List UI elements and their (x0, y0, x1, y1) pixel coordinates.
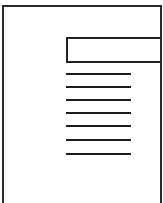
page-outline (2, 5, 162, 203)
text-line-6 (66, 139, 131, 141)
text-line-5 (66, 125, 131, 127)
text-line-4 (66, 112, 131, 114)
text-line-3 (66, 99, 131, 101)
text-line-2 (66, 86, 131, 88)
text-line-7 (66, 153, 131, 155)
header-box (66, 37, 162, 63)
text-line-1 (66, 73, 131, 75)
